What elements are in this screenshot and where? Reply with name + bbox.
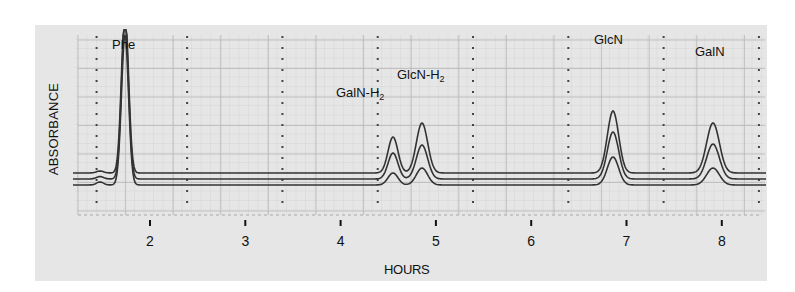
subscript: 2 xyxy=(379,92,384,102)
peak-label-glcn: GlcN xyxy=(594,32,623,47)
peak-label-galn: GalN xyxy=(695,44,725,59)
x-tick-label: 6 xyxy=(527,233,535,249)
subscript: 2 xyxy=(440,74,445,84)
peak-label-glcn-h2-text: GlcN-H xyxy=(397,67,440,82)
x-axis-label: HOURS xyxy=(384,262,429,277)
x-tick-label: 5 xyxy=(432,233,440,249)
x-tick-label: 4 xyxy=(337,233,345,249)
x-tick-label: 8 xyxy=(718,233,726,249)
y-axis-label: ABSORBANCE xyxy=(46,83,61,175)
x-axis-ticks xyxy=(150,220,722,226)
peak-label-galn-h2-text: GalN-H xyxy=(336,85,379,100)
x-tick-label: 2 xyxy=(146,233,154,249)
peak-label-glcn-h2: GlcN-H2 xyxy=(397,67,445,84)
peak-label-galn-h2: GalN-H2 xyxy=(336,85,384,102)
x-tick-label: 7 xyxy=(623,233,631,249)
x-tick-label: 3 xyxy=(241,233,249,249)
peak-label-phe: Phe xyxy=(112,37,135,52)
